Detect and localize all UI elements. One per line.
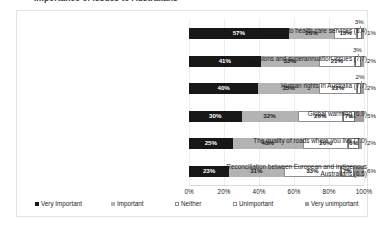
category-label: Pensions and superannuation issues (7.7) [199, 55, 367, 63]
legend-swatch-icon [175, 202, 179, 206]
chart-title-text: Importance of issues to Australians [34, 0, 178, 3]
data-label-above: 2% [356, 74, 365, 80]
x-tick-label: 100% [356, 188, 372, 195]
legend-swatch-icon [35, 202, 39, 206]
data-label-outside: 5% [367, 113, 376, 119]
x-axis-line [189, 185, 364, 186]
legend-item[interactable]: Important [111, 200, 144, 207]
legend-item[interactable]: Very unimportant [305, 200, 359, 207]
category-label: Human rights in Australia (7.7) [199, 82, 367, 90]
gridline-100 [364, 19, 365, 185]
category-label: Access to health care services (8.4) [199, 27, 367, 35]
gridline-0 [189, 19, 190, 185]
legend-item[interactable]: Unimportant [233, 200, 273, 207]
legend-item[interactable]: Neither [175, 200, 201, 207]
data-label-outside: 2% [367, 140, 376, 146]
data-label-above: 3% [353, 47, 362, 53]
x-tick-label: 60% [288, 188, 301, 195]
legend-swatch-icon [305, 202, 309, 206]
legend-item[interactable]: Very Important [35, 200, 82, 207]
legend-label: Very Important [41, 200, 82, 207]
leader-line [360, 26, 361, 29]
x-tick-label: 0% [184, 188, 193, 195]
legend-label: Neither [181, 200, 201, 207]
gridline-60 [294, 19, 295, 185]
category-label: The quality of roads where you live (7.0… [199, 137, 367, 145]
data-label-outside: 1% [367, 30, 376, 36]
gridline-20 [224, 19, 225, 185]
data-label-above: 3% [355, 19, 364, 25]
data-label-outside: 6% [367, 168, 376, 174]
category-label: Reconciliation between European and Indi… [199, 163, 367, 178]
plot-area: 57%26%13%41%33%21%40%35%22%30%32%26%7%25… [189, 19, 364, 185]
chart-frame: 57%26%13%41%33%21%40%35%22%30%32%26%7%25… [16, 10, 368, 217]
legend-label: Unimportant [239, 200, 273, 207]
x-axis-tick-labels: 0%20%40%60%80%100% [189, 188, 364, 198]
legend-swatch-icon [111, 202, 115, 206]
x-tick-label: 20% [218, 188, 231, 195]
gridline-80 [329, 19, 330, 185]
leader-line [358, 54, 359, 57]
data-label-outside: 2% [367, 85, 376, 91]
x-tick-label: 80% [323, 188, 336, 195]
chart-title-clipped: Importance of issues to Australians [0, 0, 385, 8]
leader-line [361, 81, 362, 84]
category-label: Global warming (6.9) [199, 110, 367, 118]
chart-legend: Very ImportantImportantNeitherUnimportan… [25, 200, 361, 212]
legend-label: Very unimportant [311, 200, 359, 207]
gridline-40 [259, 19, 260, 185]
legend-label: Important [117, 200, 144, 207]
data-label-outside: 2% [367, 58, 376, 64]
legend-swatch-icon [233, 202, 237, 206]
x-tick-label: 40% [253, 188, 266, 195]
